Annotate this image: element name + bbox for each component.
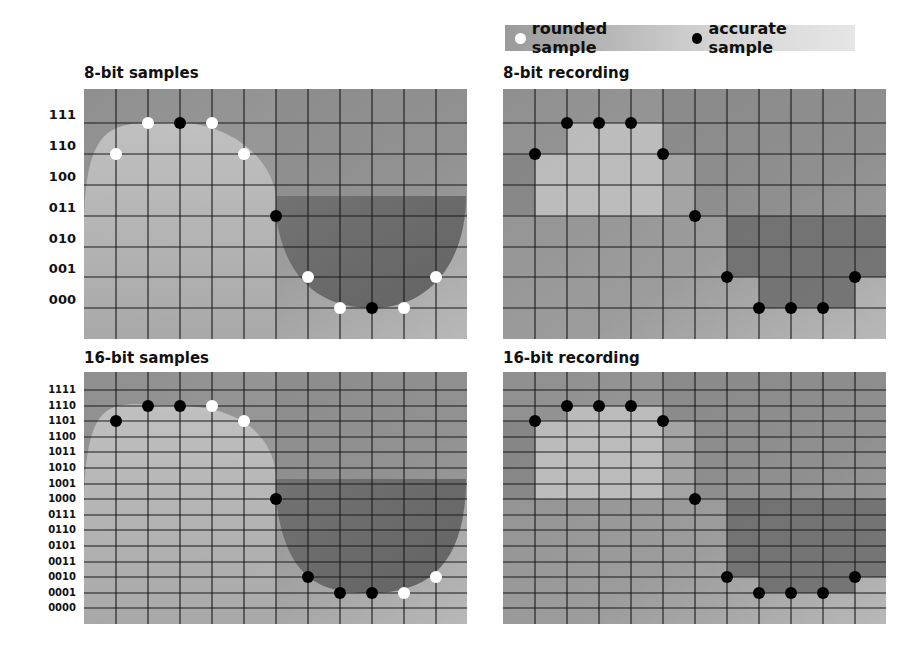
y-axis-label: 1011: [20, 446, 76, 457]
y-axis-label: 000: [20, 292, 76, 307]
y-axis-label: 1010: [20, 462, 76, 473]
legend-accurate: accurate sample: [692, 19, 855, 57]
y-axis-label: 110: [20, 138, 76, 153]
legend-rounded-label: rounded sample: [532, 19, 676, 57]
panel-title-16bit-samples: 16-bit samples: [84, 349, 209, 367]
black-dot-icon: [692, 33, 703, 44]
panel-title-8bit-samples: 8-bit samples: [84, 64, 199, 82]
y-axis-label: 0000: [20, 602, 76, 613]
y-axis-label: 1001: [20, 478, 76, 489]
panel-title-8bit-recording: 8-bit recording: [503, 64, 629, 82]
chart-16bit-recording: [503, 372, 886, 624]
y-axis-label: 0010: [20, 571, 76, 582]
y-axis-label: 1111: [20, 384, 76, 395]
y-axis-label: 1101: [20, 415, 76, 426]
legend: rounded sample accurate sample: [505, 25, 855, 51]
y-axis-label: 0011: [20, 556, 76, 567]
chart-8bit-recording: [503, 89, 886, 339]
y-axis-label: 010: [20, 231, 76, 246]
y-axis-label: 001: [20, 261, 76, 276]
panel-title-16bit-recording: 16-bit recording: [503, 349, 640, 367]
y-axis-label: 0101: [20, 540, 76, 551]
chart-8bit-samples: [84, 89, 467, 339]
y-axis-label: 111: [20, 107, 76, 122]
y-axis-label: 0001: [20, 587, 76, 598]
y-axis-label: 0111: [20, 509, 76, 520]
chart-16bit-samples: [84, 372, 467, 624]
y-axis-label: 100: [20, 169, 76, 184]
legend-rounded: rounded sample: [515, 19, 676, 57]
y-axis-label: 1000: [20, 493, 76, 504]
y-axis-label: 011: [20, 200, 76, 215]
legend-accurate-label: accurate sample: [708, 19, 855, 57]
y-axis-label: 1110: [20, 400, 76, 411]
y-axis-label: 1100: [20, 431, 76, 442]
y-axis-label: 0110: [20, 524, 76, 535]
white-dot-icon: [515, 33, 526, 44]
